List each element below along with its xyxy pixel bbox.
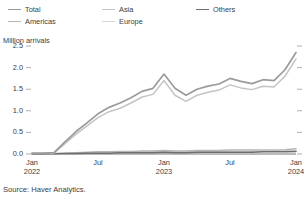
legend-label-total: Total: [25, 6, 41, 13]
plot-area: [0, 44, 308, 164]
legend-label-asia: Asia: [119, 6, 133, 13]
x-axis-tick-label: Jan2022: [12, 158, 52, 177]
legend-item-asia: Asia: [102, 6, 133, 13]
legend-item-europe: Europe: [102, 18, 143, 25]
x-axis-tick-label: Jul: [210, 158, 250, 167]
y-axis-tick-label: 0.0: [3, 150, 23, 157]
x-axis-tick-label: Jul: [78, 158, 118, 167]
legend-label-others: Others: [213, 6, 235, 13]
legend-swatch-total: [8, 9, 21, 10]
legend-swatch-europe: [102, 21, 115, 22]
plot-svg: [0, 44, 308, 164]
y-axis-tick-label: 0.5: [3, 128, 23, 135]
x-axis-tick-label: Jan2023: [144, 158, 184, 177]
series-line-asia: [32, 59, 296, 154]
chart-figure: Total Americas Asia Europe Others Millio…: [0, 0, 308, 199]
legend-swatch-americas: [8, 21, 21, 22]
legend-item-others: Others: [196, 6, 235, 13]
y-axis-tick-label: 2.5: [3, 42, 23, 49]
legend-label-americas: Americas: [25, 18, 56, 25]
legend-item-americas: Americas: [8, 18, 56, 25]
source-note: Source: Haver Analytics.: [3, 185, 86, 194]
legend-label-europe: Europe: [119, 18, 143, 25]
legend-swatch-others: [196, 9, 209, 10]
legend-swatch-asia: [102, 9, 115, 10]
x-axis-tick-label: Jan2024: [276, 158, 308, 177]
y-axis-tick-label: 1.5: [3, 85, 23, 92]
y-axis-tick-label: 2.0: [3, 64, 23, 71]
y-axis-tick-label: 1.0: [3, 107, 23, 114]
chart-legend: Total Americas Asia Europe Others: [8, 4, 300, 30]
legend-item-total: Total: [8, 6, 41, 13]
